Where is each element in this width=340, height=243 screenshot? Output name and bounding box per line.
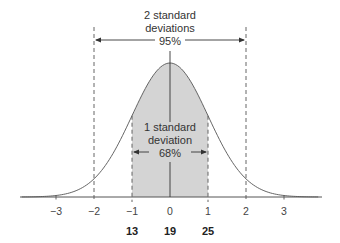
- raw-value-label: 19: [164, 225, 176, 237]
- z-tick-label: −2: [88, 205, 100, 217]
- arrow-right-icon: [239, 38, 245, 43]
- two-sd-label-line1: 2 standard: [144, 9, 196, 21]
- z-tick-label: 2: [243, 205, 249, 217]
- one-sd-label-line2: deviation: [148, 134, 192, 146]
- z-tick-label: 0: [167, 205, 173, 217]
- z-tick-label: −1: [126, 205, 138, 217]
- z-tick-label: 1: [205, 205, 211, 217]
- one-sd-percent: 68%: [159, 147, 181, 159]
- z-tick-label: −3: [50, 205, 62, 217]
- z-tick-labels: −3−2−10123: [50, 205, 287, 217]
- arrow-left-icon: [95, 38, 101, 43]
- z-tick-label: 3: [281, 205, 287, 217]
- one-sd-label-line1: 1 standard: [144, 121, 196, 133]
- raw-value-label: 13: [126, 225, 138, 237]
- two-sd-label-line2: deviations: [145, 22, 195, 34]
- raw-value-label: 25: [202, 225, 214, 237]
- normal-distribution-diagram: 2 standard deviations 95% 1 standard dev…: [0, 0, 340, 243]
- raw-value-labels: 131925: [126, 225, 214, 237]
- two-sd-percent: 95%: [159, 35, 181, 47]
